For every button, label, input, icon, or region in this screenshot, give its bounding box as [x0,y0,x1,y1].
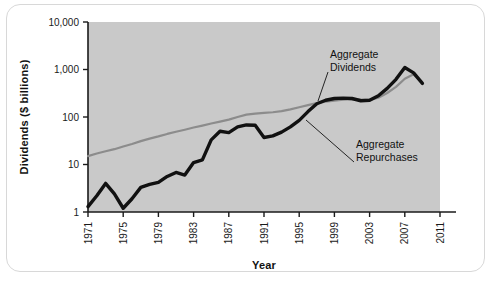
y-axis-title: Dividends ($ billions) [18,59,30,174]
x-axis-tick-label: 1987 [223,222,234,245]
y-axis-tick-label: 100 [62,112,79,123]
x-axis-tick-label: 1995 [294,222,305,245]
y-axis-tick-label: 1 [73,207,79,218]
chart-figure: 10,0001,000100101 1971197519791983198719… [0,0,491,282]
x-axis-tick-label: 1979 [153,222,164,245]
x-axis-tick-label: 2003 [364,222,375,245]
y-axis-tick-label: 1,000 [54,64,79,75]
dividends-repurchases-line-chart: 10,0001,000100101 1971197519791983198719… [0,0,491,282]
x-axis-title: Year [252,259,277,271]
plot-area-background [88,22,440,212]
x-axis-tick-label: 2007 [399,222,410,245]
x-axis-tick-label: 1971 [83,222,94,245]
x-axis: 1971197519791983198719911995199920032007… [83,212,456,244]
x-axis-tick-label: 1991 [259,222,270,245]
x-axis-tick-label: 1999 [329,222,340,245]
x-axis-tick-label: 2011 [435,222,446,244]
y-axis-tick-label: 10,000 [48,17,79,28]
y-axis-tick-label: 10 [68,159,80,170]
x-axis-tick-label: 1975 [118,222,129,245]
annotation-label-aggregate-dividends: AggregateDividends [330,48,379,73]
y-axis: 10,0001,000100101 [48,17,88,218]
x-axis-tick-label: 1983 [188,222,199,245]
